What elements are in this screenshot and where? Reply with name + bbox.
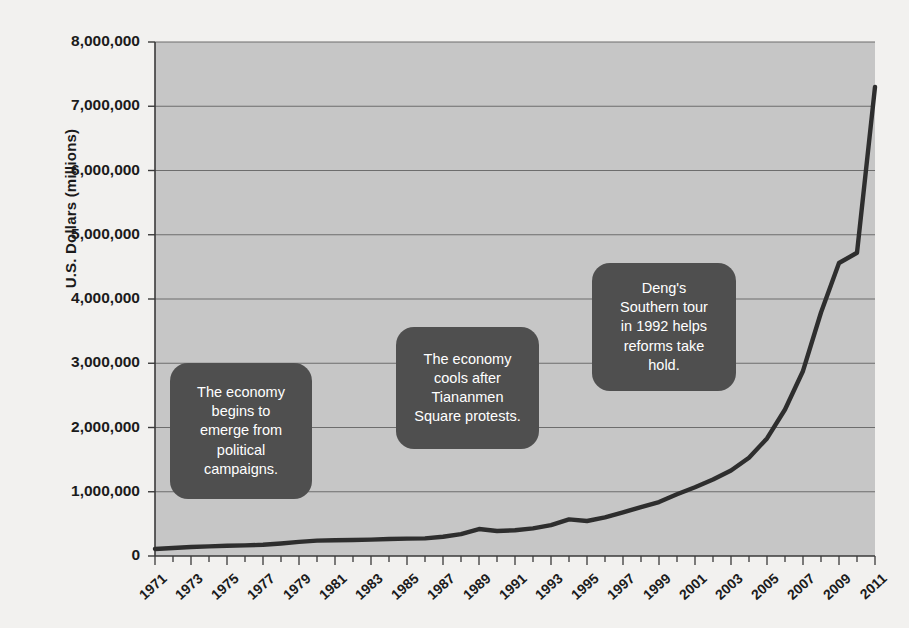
annotation-tiananmen: The economy cools after Tiananmen Square… — [396, 327, 539, 449]
y-axis-tick-label: 1,000,000 — [0, 482, 140, 500]
y-axis-tick-label: 3,000,000 — [0, 353, 140, 371]
y-axis-tick-label: 8,000,000 — [0, 32, 140, 50]
y-axis-tick-label: 4,000,000 — [0, 289, 140, 307]
y-axis-tick-label: 2,000,000 — [0, 418, 140, 436]
annotation-political-campaigns: The economy begins to emerge from politi… — [170, 363, 312, 499]
annotation-deng-southern-tour: Deng's Southern tour in 1992 helps refor… — [592, 263, 736, 391]
y-axis-tick-label: 5,000,000 — [0, 225, 140, 243]
y-axis-tick-label: 0 — [0, 546, 140, 564]
chart-container: U.S. Dollars (millions) 01,000,0002,000,… — [0, 0, 909, 628]
y-axis-tick-label: 6,000,000 — [0, 161, 140, 179]
y-axis-tick-label: 7,000,000 — [0, 96, 140, 114]
chart-plot-svg — [0, 0, 909, 628]
